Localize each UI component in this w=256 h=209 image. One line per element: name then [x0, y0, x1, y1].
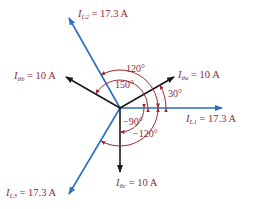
- phasor-IL3-arrow: [69, 108, 120, 194]
- angle-arc-30: [160, 85, 166, 108]
- label-Ia-subscript: θa: [182, 74, 189, 82]
- label-Ib: Iθb = 10 A: [14, 71, 56, 83]
- label-IL3: IL3 = 17.3 A: [6, 188, 56, 200]
- label-IL2-subscript: L2: [82, 13, 89, 21]
- label-IL2-value: = 17.3 A: [92, 8, 129, 19]
- angle-label-150: 150°: [115, 80, 134, 90]
- label-IL3-subscript: L3: [10, 192, 17, 200]
- label-Ia-value: = 10 A: [191, 69, 220, 80]
- label-IL3-value: = 17.3 A: [20, 187, 57, 198]
- label-IL1-value: = 17.3 A: [200, 113, 237, 124]
- label-IL1-subscript: L1: [190, 118, 197, 126]
- label-Ib-value: = 10 A: [27, 70, 56, 81]
- label-Ic: Iθc = 10 A: [116, 178, 157, 190]
- label-Ic-subscript: θc: [120, 182, 127, 190]
- label-Ic-value: = 10 A: [129, 177, 158, 188]
- label-Ia: Iθa = 10 A: [178, 70, 220, 82]
- angle-label-30: 30°: [168, 89, 182, 99]
- label-IL2: IL2 = 17.3 A: [78, 9, 128, 21]
- label-IL1: IL1 = 17.3 A: [186, 114, 236, 126]
- angle-label-neg90: −90°: [123, 117, 143, 127]
- label-Ib-subscript: θb: [18, 75, 25, 83]
- angle-label-120: 120°: [126, 64, 145, 74]
- phasor-IL2-arrow: [69, 18, 120, 108]
- angle-label-neg120: −120°: [133, 129, 158, 139]
